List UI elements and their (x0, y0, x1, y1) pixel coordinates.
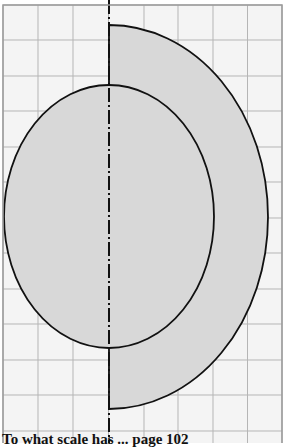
caption-text: To what scale has ... page 102 (2, 430, 189, 448)
